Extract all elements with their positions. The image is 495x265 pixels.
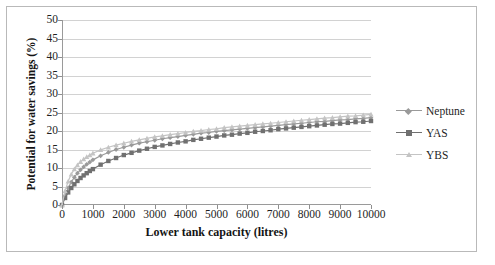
- x-axis-tick-labels: 0100020003000400050006000700080009000100…: [62, 208, 371, 224]
- data-point-marker: [307, 124, 311, 128]
- legend-item-ybs[interactable]: YBS: [396, 144, 474, 166]
- data-point-marker: [137, 148, 141, 152]
- data-point-marker: [145, 147, 149, 151]
- y-axis-tick-label: 20: [24, 125, 58, 137]
- data-point-marker: [338, 121, 342, 125]
- data-point-marker: [284, 126, 288, 130]
- data-point-marker: [176, 140, 180, 144]
- data-point-marker: [122, 153, 126, 157]
- legend-marker-square-icon: [406, 130, 412, 136]
- chart-figure: Potential for water savings (%) 05101520…: [0, 0, 495, 265]
- data-point-marker: [276, 127, 280, 131]
- data-point-marker: [237, 131, 241, 135]
- data-point-marker: [353, 120, 357, 124]
- legend-item-yas[interactable]: YAS: [396, 122, 474, 144]
- legend-label: Neptune: [426, 105, 465, 117]
- data-point-marker: [191, 138, 195, 142]
- data-point-marker: [98, 162, 102, 166]
- data-point-marker: [322, 123, 326, 127]
- data-point-marker: [315, 123, 319, 127]
- legend-item-neptune[interactable]: Neptune: [396, 100, 474, 122]
- y-axis-tick-label: 5: [24, 181, 58, 193]
- data-point-marker: [346, 121, 350, 125]
- data-point-marker: [199, 137, 203, 141]
- y-axis-tick-label: 10: [24, 162, 58, 174]
- data-point-marker: [114, 156, 118, 160]
- data-point-marker: [106, 159, 110, 163]
- data-point-marker: [361, 120, 365, 124]
- y-axis-tick-labels: 05101520253035404550: [20, 20, 58, 205]
- data-point-marker: [292, 125, 296, 129]
- data-point-marker: [299, 125, 303, 129]
- data-point-marker: [121, 145, 126, 150]
- data-point-marker: [160, 143, 164, 147]
- data-point-marker: [153, 145, 157, 149]
- data-point-marker: [253, 130, 257, 134]
- data-point-marker: [106, 150, 111, 155]
- y-axis-tick-label: 40: [24, 51, 58, 63]
- legend-label: YAS: [426, 127, 448, 139]
- x-axis-tick-label: 10000: [344, 208, 398, 220]
- y-axis-tick-label: 50: [24, 14, 58, 26]
- plot-wrapper: [62, 20, 371, 205]
- data-point-marker: [230, 133, 234, 137]
- data-point-marker: [245, 131, 249, 135]
- data-point-marker: [168, 142, 172, 146]
- legend-swatch-ybs-icon: [396, 149, 422, 161]
- y-axis-tick-label: 25: [24, 107, 58, 119]
- series-canvas: [62, 20, 371, 205]
- legend-marker-triangle-icon: [406, 152, 412, 157]
- legend-label: YBS: [426, 149, 448, 161]
- data-point-marker: [183, 139, 187, 143]
- legend-swatch-neptune-icon: [396, 105, 422, 117]
- data-point-marker: [369, 119, 373, 123]
- data-point-marker: [98, 153, 103, 158]
- y-axis-tick-label: 35: [24, 70, 58, 82]
- data-point-marker: [129, 151, 133, 155]
- data-point-marker: [222, 133, 226, 137]
- y-axis-tick-label: 15: [24, 144, 58, 156]
- data-point-marker: [207, 135, 211, 139]
- data-point-marker: [91, 167, 95, 171]
- data-point-marker: [268, 128, 272, 132]
- legend-marker-diamond-icon: [405, 108, 411, 114]
- chart-legend: NeptuneYASYBS: [396, 100, 474, 166]
- y-axis-tick-label: 45: [24, 33, 58, 45]
- data-point-marker: [261, 129, 265, 133]
- data-point-marker: [330, 122, 334, 126]
- data-point-marker: [214, 134, 218, 138]
- x-axis-title: Lower tank capacity (litres): [62, 225, 371, 240]
- data-point-marker: [114, 147, 119, 152]
- legend-swatch-yas-icon: [396, 127, 422, 139]
- y-axis-tick-label: 30: [24, 88, 58, 100]
